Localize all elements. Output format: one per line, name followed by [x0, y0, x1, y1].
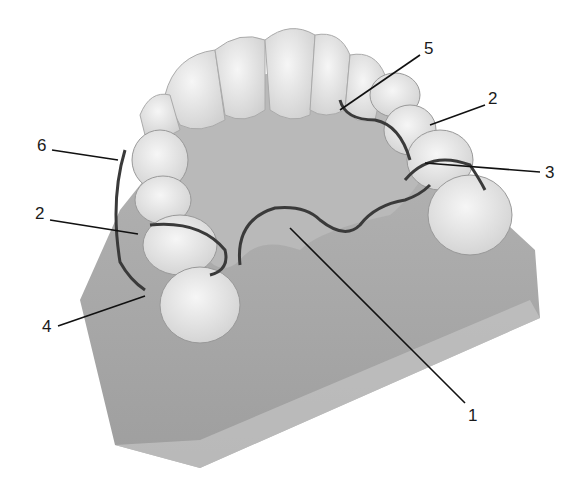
label-5: 5 [424, 40, 433, 57]
leader-6 [52, 150, 118, 160]
dental-cast-illustration [0, 0, 587, 490]
label-4: 4 [42, 318, 51, 335]
label-3: 3 [545, 164, 554, 181]
label-2-left: 2 [35, 205, 44, 222]
label-2-right: 2 [488, 90, 497, 107]
label-6: 6 [37, 137, 46, 154]
leader-2-right [430, 105, 485, 125]
label-1: 1 [468, 407, 477, 424]
